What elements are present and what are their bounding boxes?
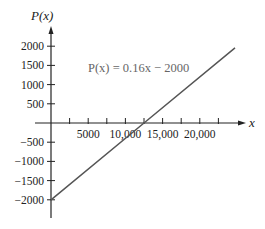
axes bbox=[35, 26, 246, 218]
y-tick-label: −500 bbox=[20, 136, 44, 148]
x-axis-label: x bbox=[248, 115, 255, 130]
y-axis-label: P(x) bbox=[30, 8, 53, 23]
x-tick-label: 15,000 bbox=[147, 128, 179, 141]
x-tick-label: 5000 bbox=[77, 128, 100, 140]
y-tick-label: −1000 bbox=[15, 155, 45, 167]
x-axis-arrow-icon bbox=[238, 121, 246, 126]
y-tick-label: 500 bbox=[27, 98, 45, 110]
y-axis-arrow-icon bbox=[49, 26, 54, 34]
y-tick-label: 1500 bbox=[21, 59, 44, 71]
y-tick-label: −1500 bbox=[15, 175, 45, 187]
y-tick-label: 1000 bbox=[21, 79, 44, 91]
x-tick-label: 20,000 bbox=[184, 128, 216, 141]
chart-canvas: 200015001000500−500−1000−1500−2000 50001… bbox=[0, 0, 265, 229]
equation-label: P(x) = 0.16x − 2000 bbox=[88, 61, 189, 75]
x-tick-labels: 500010,00015,00020,000 bbox=[77, 128, 216, 141]
y-tick-label: 2000 bbox=[21, 40, 44, 52]
y-tick-label: −2000 bbox=[15, 194, 45, 206]
